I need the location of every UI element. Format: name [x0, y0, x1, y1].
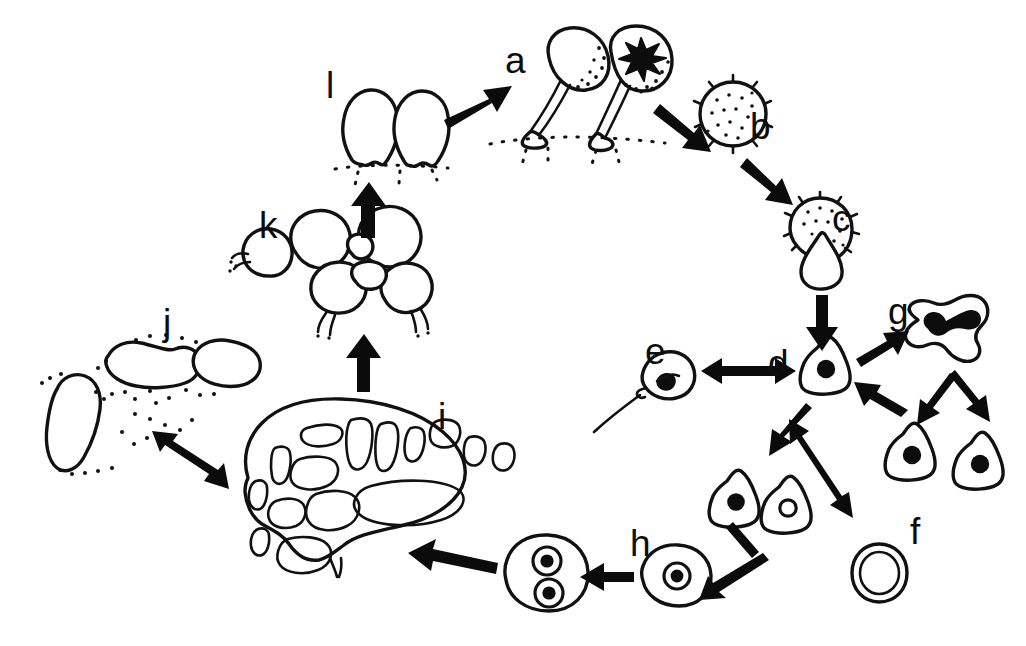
arrow-h-to-i	[408, 539, 498, 574]
stage-label-d: d	[768, 345, 789, 382]
nucleus-gamete-dark	[727, 493, 745, 511]
stage-label-h: h	[630, 525, 651, 562]
arrow-gametes-to-h	[699, 522, 769, 600]
life-cycle-diagram	[0, 0, 1026, 646]
stage-i-plasmodium	[245, 399, 515, 577]
arrow-g-division-right	[949, 370, 990, 422]
arrow-g-to-d	[854, 382, 908, 417]
binucleate-nucleus-2-inner	[542, 586, 555, 599]
arrow-i-to-k	[346, 334, 381, 392]
stage-l-immature-sporangia	[335, 90, 449, 185]
stage-label-f: f	[910, 513, 920, 550]
stage-label-c: c	[832, 200, 851, 237]
dehiscence-star	[619, 38, 666, 81]
stage-f-microcyst	[852, 544, 907, 602]
stage-label-b: b	[750, 108, 771, 145]
arrow-b-to-c	[740, 158, 793, 205]
nucleus-daughter-left	[903, 446, 921, 464]
arrow-l-to-a	[444, 86, 512, 129]
gamete-pair	[709, 470, 811, 533]
stage-label-a: a	[505, 42, 526, 79]
stage-j-sclerotium	[40, 333, 260, 476]
zygote-nucleus-inner	[671, 570, 684, 583]
figure-canvas: a b c d e f g h i j k l	[0, 0, 1026, 646]
nucleus-gamete-light	[780, 500, 796, 516]
stage-label-e: e	[645, 333, 666, 370]
arrow-g-division-left	[917, 373, 956, 425]
arrow-i-to-j	[152, 431, 229, 489]
nucleus-daughter-right	[971, 455, 989, 473]
stage-label-i: i	[438, 398, 446, 435]
stage-label-l: l	[326, 67, 334, 104]
stage-label-g: g	[888, 293, 909, 330]
stage-label-j: j	[163, 304, 171, 341]
arrow-d-to-g	[856, 331, 909, 367]
binucleate-nucleus-1-inner	[540, 554, 553, 567]
stage-label-k: k	[259, 207, 278, 244]
nucleus-d	[817, 360, 835, 378]
